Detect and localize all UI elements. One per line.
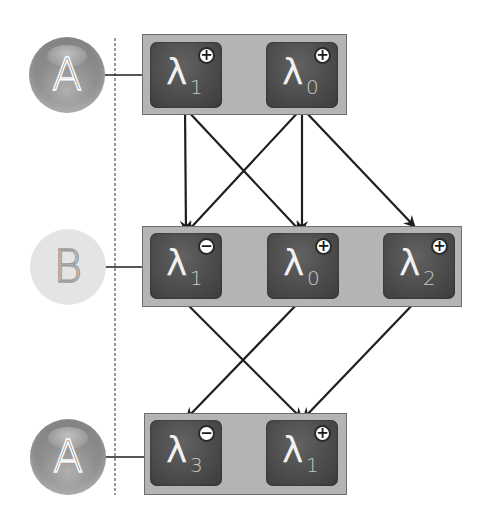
lambda-symbol: λ — [166, 243, 187, 283]
arrow-edge — [303, 299, 418, 419]
lambda-index: 2 — [423, 267, 436, 289]
lambda-index: 0 — [306, 76, 319, 98]
lambda-node: λ 0 + — [266, 42, 338, 108]
plus-sign-icon: + — [198, 47, 215, 64]
minus-sign-icon: − — [198, 425, 215, 442]
lambda-symbol: λ — [166, 52, 187, 92]
lambda-index: 1 — [306, 454, 319, 476]
agent-label: B — [54, 245, 83, 289]
lambda-node: λ 1 + — [150, 42, 222, 108]
lambda-node: λ 3 − — [150, 420, 222, 486]
lambda-node: λ 1 − — [150, 233, 222, 299]
plus-sign-icon: + — [314, 47, 331, 64]
minus-sign-icon: − — [198, 238, 215, 255]
lambda-index: 0 — [307, 267, 320, 289]
lambda-symbol: λ — [282, 52, 303, 92]
plus-sign-icon: + — [431, 238, 448, 255]
diagram-canvas: A B A λ 1 + λ 0 + λ 1 − λ 0 + λ 2 + λ 3 … — [0, 0, 488, 518]
lambda-index: 1 — [190, 76, 203, 98]
lambda-node: λ 1 + — [266, 420, 338, 486]
lambda-symbol: λ — [283, 243, 304, 283]
agent-a-top: A — [29, 37, 105, 113]
lambda-symbol: λ — [282, 430, 303, 470]
agent-label: A — [52, 53, 82, 97]
lambda-index: 1 — [190, 267, 203, 289]
agent-label: A — [53, 435, 83, 479]
lambda-node: λ 0 + — [267, 233, 339, 299]
lambda-index: 3 — [190, 454, 203, 476]
arrow-edge — [185, 108, 186, 232]
agent-b: B — [30, 229, 106, 305]
lambda-node: λ 2 + — [383, 233, 455, 299]
plus-sign-icon: + — [314, 425, 331, 442]
plus-sign-icon: + — [315, 238, 332, 255]
arrow-edge — [302, 108, 415, 227]
agent-a-bottom: A — [30, 419, 106, 495]
lambda-symbol: λ — [166, 430, 187, 470]
lambda-symbol: λ — [399, 243, 420, 283]
